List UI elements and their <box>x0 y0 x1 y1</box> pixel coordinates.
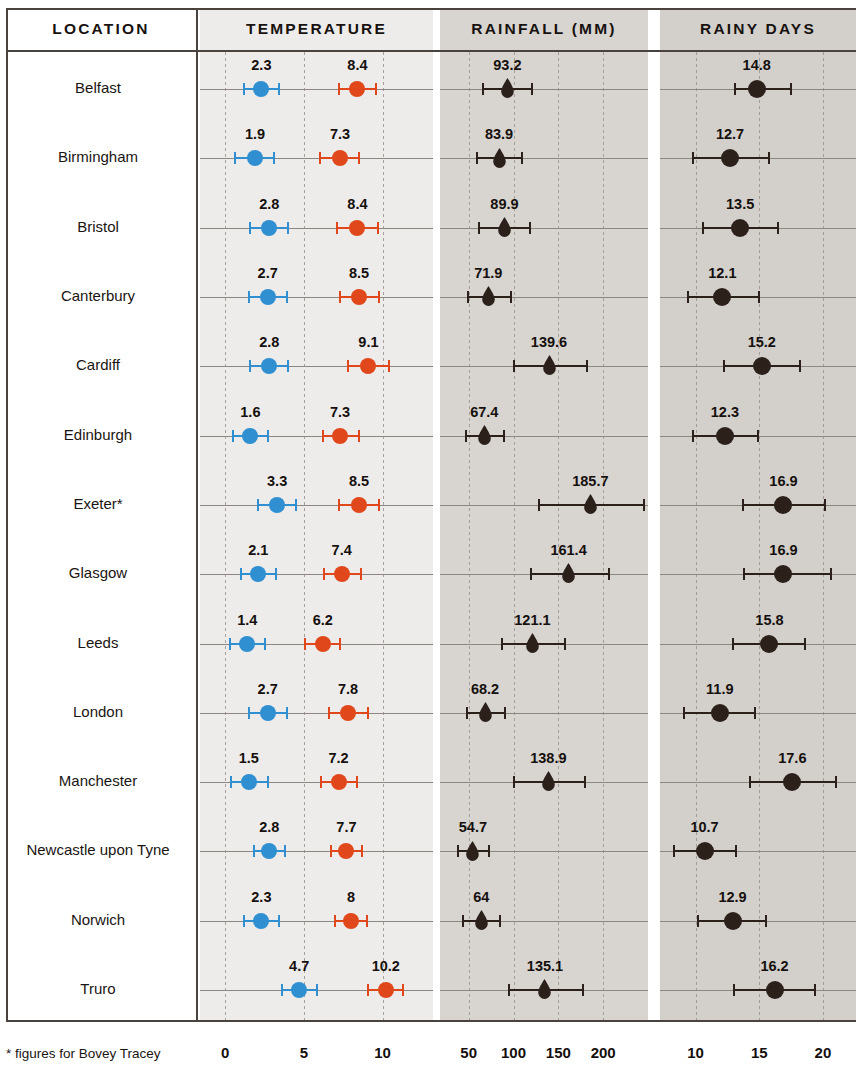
cell-rainy-days: 12.3 <box>0 397 856 466</box>
table-row: Norwich2.386412.9 <box>0 882 856 951</box>
rainy-days-marker <box>753 357 771 375</box>
axis-tick-label-rainy-days: 20 <box>815 1044 832 1061</box>
axis-tick-label-temperature: 10 <box>374 1044 391 1061</box>
rainy-days-value: 16.2 <box>760 958 788 974</box>
rainy-days-value: 10.7 <box>690 819 718 835</box>
rainy-days-value: 16.9 <box>769 473 797 489</box>
rainy-days-value: 15.2 <box>748 334 776 350</box>
cell-rainy-days: 16.2 <box>0 951 856 1020</box>
error-bar-cap <box>757 430 759 442</box>
rainy-days-value: 13.5 <box>726 196 754 212</box>
cell-rainy-days: 16.9 <box>0 466 856 535</box>
error-bar-cap <box>733 984 735 996</box>
error-bar-cap <box>687 291 689 303</box>
table-row: Birmingham1.97.383.912.7 <box>0 119 856 188</box>
error-bar-cap <box>799 360 801 372</box>
cell-rainy-days: 12.1 <box>0 258 856 327</box>
error-bar-cap <box>743 568 745 580</box>
error-bar-cap <box>735 845 737 857</box>
cell-rainy-days: 15.2 <box>0 327 856 396</box>
error-bar-cap <box>777 222 779 234</box>
rainy-days-marker <box>731 219 749 237</box>
error-bar-cap <box>702 222 704 234</box>
error-bar-cap <box>723 360 725 372</box>
error-bar-cap <box>790 83 792 95</box>
error-bar-cap <box>824 499 826 511</box>
rainy-days-marker <box>724 912 742 930</box>
rainy-days-marker <box>760 635 778 653</box>
rainy-days-value: 11.9 <box>706 681 733 697</box>
error-bar-cap <box>768 152 770 164</box>
axis-tick-label-rainfall: 100 <box>501 1044 526 1061</box>
table-row: Canterbury2.78.571.912.1 <box>0 258 856 327</box>
error-bar-cap <box>804 638 806 650</box>
rainy-days-marker <box>774 565 792 583</box>
cell-rainy-days: 12.9 <box>0 882 856 951</box>
axis-tick-label-rainfall: 150 <box>546 1044 571 1061</box>
rainy-days-value: 12.9 <box>718 889 746 905</box>
column-header-rainy-days: RAINY DAYS <box>660 8 856 50</box>
table-row: Leeds1.46.2121.115.8 <box>0 604 856 673</box>
rainy-days-marker <box>774 496 792 514</box>
axis-tick-label-rainfall: 200 <box>591 1044 616 1061</box>
cell-rainy-days: 11.9 <box>0 674 856 743</box>
bottom-border <box>6 1020 856 1022</box>
rainy-days-marker <box>748 80 766 98</box>
axis-tick-label-temperature: 0 <box>221 1044 229 1061</box>
table-row: Glasgow2.17.4161.416.9 <box>0 535 856 604</box>
rainy-days-marker <box>716 427 734 445</box>
table-row: Truro4.710.2135.116.2 <box>0 951 856 1020</box>
error-bar-cap <box>814 984 816 996</box>
cell-rainy-days: 14.8 <box>0 50 856 119</box>
column-header-temperature: TEMPERATURE <box>200 8 433 50</box>
error-bar-cap <box>673 845 675 857</box>
rainy-days-marker <box>713 288 731 306</box>
rainy-days-value: 15.8 <box>755 612 783 628</box>
rainy-days-marker <box>721 149 739 167</box>
error-bar-cap <box>734 83 736 95</box>
table-row: Newcastle upon Tyne2.87.754.710.7 <box>0 812 856 881</box>
rainy-days-marker <box>696 842 714 860</box>
rainy-days-value: 17.6 <box>778 750 806 766</box>
column-header-rainfall: RAINFALL (MM) <box>440 8 648 50</box>
table-row: London2.77.868.211.9 <box>0 674 856 743</box>
axis-tick-label-rainy-days: 15 <box>751 1044 768 1061</box>
rainy-days-value: 12.3 <box>711 404 739 420</box>
rainy-days-value: 12.7 <box>716 126 744 142</box>
cell-rainy-days: 13.5 <box>0 189 856 258</box>
cell-rainy-days: 10.7 <box>0 812 856 881</box>
rainy-days-value: 12.1 <box>708 265 736 281</box>
error-bar-cap <box>754 707 756 719</box>
table-row: Manchester1.57.2138.917.6 <box>0 743 856 812</box>
error-bar-cap <box>697 915 699 927</box>
error-bar-cap <box>692 152 694 164</box>
rainy-days-marker <box>766 981 784 999</box>
table-row: Cardiff2.89.1139.615.2 <box>0 327 856 396</box>
column-header-location: LOCATION <box>6 8 196 50</box>
cell-rainy-days: 17.6 <box>0 743 856 812</box>
header-row: LOCATIONTEMPERATURERAINFALL (MM)RAINY DA… <box>0 8 856 50</box>
error-bar-cap <box>732 638 734 650</box>
error-bar-cap <box>749 776 751 788</box>
cell-rainy-days: 12.7 <box>0 119 856 188</box>
table-row: Bristol2.88.489.913.5 <box>0 189 856 258</box>
table-row: Edinburgh1.67.367.412.3 <box>0 397 856 466</box>
axis-tick-label-temperature: 5 <box>300 1044 308 1061</box>
error-bar-cap <box>683 707 685 719</box>
axis-tick-label-rainfall: 50 <box>460 1044 477 1061</box>
error-bar-cap <box>758 291 760 303</box>
error-bar-cap <box>742 499 744 511</box>
table-row: Belfast2.38.493.214.8 <box>0 50 856 119</box>
error-bar-cap <box>692 430 694 442</box>
table-row: Exeter*3.38.5185.716.9 <box>0 466 856 535</box>
cell-rainy-days: 16.9 <box>0 535 856 604</box>
rainy-days-value: 16.9 <box>769 542 797 558</box>
cell-rainy-days: 15.8 <box>0 604 856 673</box>
error-bar-cap <box>765 915 767 927</box>
footnote: * figures for Bovey Tracey <box>6 1046 161 1061</box>
rainy-days-marker <box>783 773 801 791</box>
rainy-days-value: 14.8 <box>743 57 771 73</box>
error-bar-cap <box>835 776 837 788</box>
axis-tick-label-rainy-days: 10 <box>687 1044 704 1061</box>
error-bar-cap <box>830 568 832 580</box>
